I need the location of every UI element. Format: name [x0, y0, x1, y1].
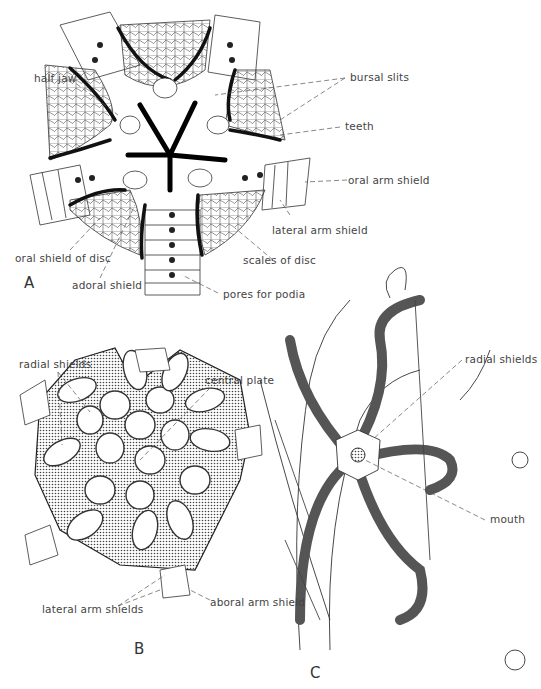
label-pores-for-podia: pores for podia: [223, 288, 305, 300]
label-central-plate: central plate: [205, 374, 274, 386]
panel-label-a: A: [24, 274, 34, 292]
panel-label-b: B: [134, 640, 144, 658]
panel-c-drawing: [260, 268, 528, 671]
label-adoral-shield: adoral shield: [72, 279, 142, 291]
label-mouth: mouth: [490, 513, 525, 525]
label-teeth: teeth: [345, 120, 374, 132]
label-radial-shields-c: radial shields: [465, 353, 537, 365]
label-oral-shield-of-disc: oral shield of disc: [15, 252, 111, 264]
label-oral-arm-shield: oral arm shield: [348, 174, 430, 186]
label-radial-shields-b: radial shields: [19, 358, 91, 370]
panel-label-c: C: [310, 664, 320, 682]
label-aboral-arm-shield: aboral arm shield: [210, 596, 305, 608]
label-scales-of-disc: scales of disc: [243, 254, 316, 266]
label-lateral-arm-shields: lateral arm shields: [42, 603, 143, 615]
label-half-jaw: half jaw: [34, 72, 77, 84]
panel-b-drawing: [20, 348, 262, 606]
label-bursal-slits: bursal slits: [350, 71, 409, 83]
brittle-star-illustration: [0, 0, 541, 689]
label-lateral-arm-shield: lateral arm shield: [272, 224, 368, 236]
